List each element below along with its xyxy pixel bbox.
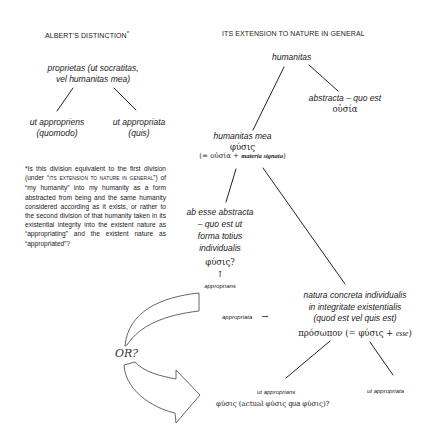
ab-esse-node: ab esse abstracta – quo est ut forma tot… [180,206,260,292]
ut-approprians-bottom: ut approprians [257,389,295,395]
connector-prosopon-approprians [286,341,330,378]
connector-proprietas-approprians [57,88,73,111]
abstracta-greek: οὐσία [290,104,400,115]
connector-mea-natura [263,168,345,284]
ut-appropriata-bottom: ut appropriata [367,388,404,394]
actual-physis-suffix: φύσις)? [300,400,329,408]
humanitas-mea-eq-italic: materia signata [241,152,283,159]
ut-approprians-left-node: ut appropriens (quomodo) [22,117,92,138]
humanitas-mea-line1: humanitas mea [190,131,295,142]
or-label: OR? [115,347,138,360]
natura-line3: (quod est vel quis est) [280,313,430,325]
abstracta-node: abstracta – quo est οὐσία [290,93,400,114]
right-heading: ITS EXTENSION TO NATURE IN GENERAL [222,30,365,37]
actual-physis-prefix: φύσις (actual φύσις [216,400,288,408]
ut-approprians-left-line1: ut appropriens [22,117,92,128]
proprietas-node: proprietas (ut socratitas, vel humanitas… [38,63,148,84]
connector-prosopon-appropriata [370,342,393,375]
ab-esse-line3: forma totius [180,230,260,242]
proprietas-line1: proprietas (ut socratitas, [38,63,148,74]
left-heading-text: ALBERT'S DISTINCTION [45,32,127,39]
proprietas-line2: vel humanitas mea) [38,74,148,85]
or-upper-arrow [125,293,199,346]
ab-esse-line1: ab esse abstracta [180,206,260,218]
left-heading: ALBERT'S DISTINCTION* [45,30,129,39]
natura-concreta-node: natura concreta individualis in integrit… [280,290,430,339]
right-arrow-icon: → [261,312,268,321]
prosopon-equation: πρόσωπον (= φύσις + esse) [280,325,430,340]
humanitas-mea-equation: (= οὐσία + materia signata) [190,152,295,161]
or-lower-arrow [124,362,200,423]
footnote-smallcaps: ITS EXTENSION TO NATURE IN GENERAL [49,176,153,181]
connector-humanitas-mea [253,67,284,130]
actual-physis-line: φύσις (actual φύσις qua φύσις)? [216,400,329,408]
ab-esse-greek: φύσις? [180,256,260,268]
approprians-label: approprians [180,280,260,292]
ab-esse-line4: individualis [180,242,260,254]
ab-esse-line2: – quo est ut [180,218,260,230]
left-heading-asterisk: * [127,30,129,36]
ut-approprians-left-line2: (quomodo) [22,128,92,139]
humanitas-mea-greek: φύσις [190,142,295,153]
connector-proprietas-appropriata [114,88,136,110]
ut-appropriata-left-line2: (quis) [104,128,174,139]
prosopon-suffix: ) [408,328,411,338]
connector-mea-abesse [226,169,236,202]
abstracta-line1: abstracta – quo est [290,93,400,104]
footnote-part2: ”) of “my humanity” into my humanity as … [25,174,166,246]
footnote: *Is this division equivalent to the firs… [25,164,166,248]
ut-appropriata-left-node: ut appropriata (quis) [104,117,174,138]
prosopon-italic: esse [396,329,409,338]
connector-humanitas-abstracta [309,65,338,91]
actual-physis-qua: qua [288,400,300,407]
humanitas-mea-eq-suffix: ) [283,152,286,160]
humanitas-mea-node: humanitas mea φύσις (= οὐσία + materia s… [190,131,295,161]
humanitas-node: humanitas [272,53,311,62]
appropriata-arrow-label: appropriata → [222,306,268,322]
appropriata-label: appropriata [222,314,252,320]
natura-line2: in integritate existentialis [280,302,430,314]
ut-appropriata-left-line1: ut appropriata [104,117,174,128]
natura-line1: natura concreta individualis [280,290,430,302]
prosopon-prefix: πρόσωπον (= φύσις + [298,328,396,338]
humanitas-mea-eq-prefix: (= οὐσία + [199,152,241,160]
up-arrow-icon: ↑ [180,268,260,280]
